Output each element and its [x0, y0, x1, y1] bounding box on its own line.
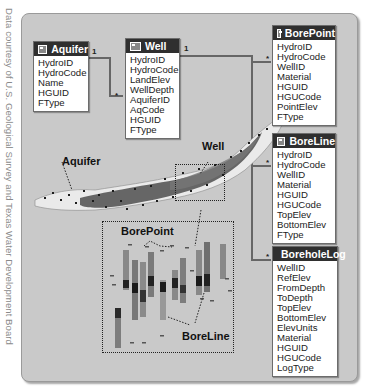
field: FType [277, 112, 331, 122]
field-list: WellID RefElev FromDepth ToDepth TopElev… [273, 261, 337, 376]
label-aquifer: Aquifer [62, 155, 101, 167]
table-name: Aquifer [51, 42, 88, 56]
feature-class-icon [277, 29, 281, 38]
table-boreline: BoreLine HydroID HydroCode WellID Materi… [272, 133, 336, 244]
table-header: BoreholeLog [273, 247, 337, 261]
field-list: HydroID HydroCode Name HGUID FType [34, 56, 88, 111]
field: FType [277, 230, 331, 240]
table-header: Well [126, 39, 179, 53]
field: LogType [277, 363, 333, 373]
well-highlight-box [175, 164, 225, 201]
feature-class-icon [38, 45, 47, 54]
table-header: Aquifer [34, 42, 88, 56]
field-list: HydroID HydroCode WellID Material HGUID … [273, 40, 335, 125]
label-well: Well [202, 140, 224, 152]
table-aquifer: Aquifer HydroID HydroCode Name HGUID FTy… [33, 41, 89, 112]
table-name: BoreLine [289, 134, 335, 148]
field: FType [38, 98, 84, 108]
table-name: Well [145, 39, 166, 53]
field: FType [130, 125, 175, 135]
table-header: BoreLine [273, 134, 335, 148]
table-header: BorePoint [273, 26, 335, 40]
label-borepoint: BorePoint [121, 225, 174, 237]
field-list: HydroID HydroCode LandElev WellDepth Aqu… [126, 53, 179, 138]
field-list: HydroID HydroCode WellID Material HGUID … [273, 148, 335, 243]
table-name: BorePoint [285, 26, 335, 40]
feature-class-icon [277, 137, 285, 146]
table-boreholelog: BoreholeLog WellID RefElev FromDepth ToD… [272, 246, 338, 377]
table-borepoint: BorePoint HydroID HydroCode WellID Mater… [272, 25, 336, 126]
table-name: BoreholeLog [281, 247, 346, 261]
label-boreline: BoreLine [182, 330, 230, 342]
feature-class-icon [130, 42, 141, 51]
table-well: Well HydroID HydroCode LandElev WellDept… [125, 38, 180, 139]
